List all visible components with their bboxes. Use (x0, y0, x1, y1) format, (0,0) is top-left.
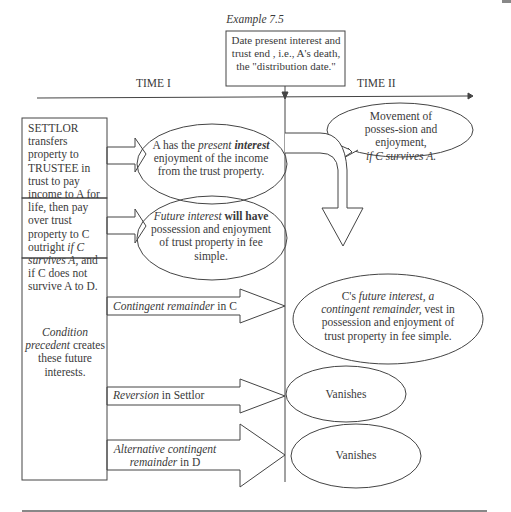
timeline-arrowhead-icon (468, 93, 473, 99)
timeline-axis (37, 96, 468, 98)
contingent-remainder-label: Contingent remainder in C (113, 300, 237, 313)
reversion-label: Reversion in Settlor (113, 389, 204, 402)
alternative-remainder-label: Alternative contingent remainder in D (110, 443, 220, 469)
arrow-present-icon (107, 138, 146, 172)
time-1-label: TIME I (136, 77, 171, 90)
condition-text: Condition precedent creates these future… (24, 326, 106, 379)
vanishes-2-text: Vanishes (316, 449, 396, 462)
time-2-label: TIME II (357, 77, 396, 90)
future-interest-text: Future interest will have possession and… (146, 210, 276, 263)
corner-mark (502, 0, 511, 3)
present-interest-text: A has the present interest enjoyment of … (146, 139, 276, 179)
settlor-text: SETTLOR transfers property to TRUSTEE in… (28, 122, 104, 294)
distribution-date-text: Date present interest and trust end , i.… (228, 34, 344, 74)
movement-text: Movement of posses-sion and enjoyment,if… (355, 110, 447, 163)
vanishes-1-text: Vanishes (306, 388, 386, 401)
vest-text: C's future interest, a contingent remain… (318, 290, 458, 343)
example-title: Example 7.5 (210, 13, 300, 26)
